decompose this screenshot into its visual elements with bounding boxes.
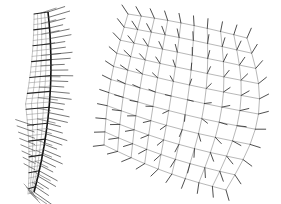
normal-vector [165, 95, 171, 96]
normal-vector [250, 144, 260, 147]
normal-vector [243, 160, 252, 167]
normal-vector [188, 164, 190, 173]
normal-vector [136, 7, 141, 16]
normal-vector [220, 171, 224, 181]
normal-vector [96, 118, 106, 119]
normal-vector [39, 87, 51, 88]
normal-vector [166, 174, 172, 182]
normal-vector [188, 100, 194, 101]
right-mesh-grid [93, 5, 268, 200]
normal-vector [106, 61, 114, 66]
normal-vector [165, 11, 168, 20]
normal-vector [207, 19, 208, 29]
normal-vector [226, 190, 229, 200]
normal-vector [159, 42, 163, 50]
grid-column-line [212, 35, 241, 187]
normal-vector [41, 160, 55, 167]
normal-vector [237, 41, 241, 50]
normal-vector [179, 13, 181, 23]
normal-vector [50, 91, 69, 93]
normal-vector [141, 135, 149, 138]
normal-vector [50, 29, 69, 33]
normal-vector [37, 130, 51, 134]
normal-vector [177, 29, 179, 38]
normal-vector [252, 44, 258, 53]
normal-vector [51, 86, 64, 87]
normal-vector [100, 90, 109, 93]
normal-vector [113, 33, 120, 40]
grid-row-line [107, 106, 250, 145]
normal-vector [109, 47, 117, 54]
normal-vector [259, 77, 267, 83]
normal-vector [222, 106, 230, 108]
normal-vector [17, 126, 34, 132]
normal-vector [28, 190, 38, 200]
normal-vector [22, 151, 35, 157]
normal-vector [37, 181, 49, 188]
normal-vector [235, 175, 241, 184]
normal-vector [247, 28, 251, 38]
normal-vector [136, 164, 145, 169]
normal-vector [256, 61, 263, 69]
normal-vector [241, 91, 249, 96]
normal-vector [204, 103, 211, 104]
normal-vector [150, 9, 154, 18]
normal-vector [49, 113, 70, 117]
normal-vector [112, 110, 121, 111]
normal-vector [224, 70, 229, 77]
normal-vector [223, 54, 227, 62]
normal-vector [109, 138, 119, 139]
normal-vector [205, 168, 206, 178]
normal-vector [51, 64, 64, 65]
normal-vector [50, 97, 71, 100]
normal-vector [163, 111, 169, 114]
grid-row-line [128, 14, 247, 38]
mesh-figure [0, 0, 281, 204]
left-mesh-strip [16, 7, 73, 204]
normal-vector [115, 95, 124, 98]
normal-vector [43, 150, 60, 157]
normal-vector [151, 169, 158, 176]
grid-row-line [114, 66, 260, 98]
normal-vector [122, 5, 128, 14]
normal-vector [50, 35, 71, 39]
normal-vector [39, 171, 57, 181]
grid-column-line [199, 32, 224, 183]
normal-vector [173, 60, 175, 67]
normal-vector [49, 107, 63, 110]
normal-vector [147, 24, 152, 32]
normal-vector [162, 26, 165, 35]
normal-vector [51, 58, 70, 59]
normal-vector [132, 21, 138, 29]
normal-vector [38, 98, 57, 100]
normal-vector [49, 18, 65, 22]
normal-vector [194, 16, 195, 26]
normal-vector [234, 25, 237, 35]
normal-vector [16, 120, 34, 126]
normal-vector [197, 183, 199, 194]
normal-vector [48, 7, 65, 12]
grid-column-line [131, 18, 154, 158]
normal-vector [50, 25, 63, 28]
normal-vector [93, 145, 104, 146]
normal-vector [175, 44, 177, 52]
normal-vector [124, 144, 133, 147]
normal-vector [199, 134, 201, 142]
normal-vector [241, 74, 248, 80]
grid-column-line [104, 14, 128, 145]
normal-vector [38, 176, 56, 186]
normal-vector [182, 179, 186, 189]
normal-vector [118, 19, 125, 27]
normal-vector [34, 192, 52, 204]
normal-vector [48, 118, 67, 123]
normal-vector [260, 94, 269, 99]
normal-vector [47, 129, 63, 134]
normal-vector [222, 38, 225, 47]
normal-vector [47, 123, 60, 126]
normal-vector [125, 130, 134, 132]
normal-vector [102, 75, 111, 79]
grid-row-line [124, 27, 252, 53]
normal-vector [221, 22, 223, 32]
normal-vector [259, 111, 269, 114]
normal-vector [51, 81, 68, 82]
